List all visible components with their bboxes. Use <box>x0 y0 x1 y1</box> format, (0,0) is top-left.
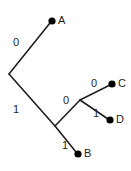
edge-label-n2-to-d: 1 <box>93 107 99 119</box>
leaf-label-d: D <box>116 113 124 125</box>
leaf-node-dot-b <box>74 150 81 157</box>
leaf-node-dot-d <box>106 116 113 123</box>
edge-label-n2-to-c: 0 <box>91 77 97 89</box>
leaf-label-a: A <box>58 14 66 26</box>
tree-diagram-canvas: A C D B 0 1 1 0 0 1 <box>0 0 131 171</box>
edge-root-to-a <box>9 23 50 74</box>
leaf-label-c: C <box>118 77 126 89</box>
edge-label-root-to-n1: 1 <box>13 103 19 115</box>
edge-root-to-n1 <box>9 74 55 126</box>
edge-label-root-to-a: 0 <box>13 36 19 48</box>
edge-label-n1-to-b: 1 <box>62 139 68 151</box>
edge-label-n1-to-n2: 0 <box>63 94 69 106</box>
leaf-label-b: B <box>84 147 91 159</box>
leaf-node-dot-a <box>48 17 55 24</box>
leaf-node-dot-c <box>108 80 115 87</box>
phylogenetic-tree-graphic: A C D B 0 1 1 0 0 1 <box>0 0 131 171</box>
